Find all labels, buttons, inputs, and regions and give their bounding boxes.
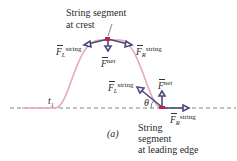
crest-caption-line1: String segment <box>66 8 126 18</box>
crest-caption-line2: at crest <box>66 20 95 30</box>
crest-f-right-label: FRstring <box>136 44 162 60</box>
edge-caption-line3: at leading edge <box>138 145 199 155</box>
edge-caption-line1: String <box>138 123 162 133</box>
theta-label: θ <box>144 98 149 108</box>
panel-label: (a) <box>107 129 119 139</box>
crest-segment <box>105 37 110 41</box>
crest-f-net-label: Fnet <box>101 56 115 69</box>
edge-f-left-label: FLstring <box>108 80 133 96</box>
edge-caption-line2: segment <box>138 134 171 144</box>
edge-segment <box>159 106 165 109</box>
crest-f-left-label: FLstring <box>56 44 81 60</box>
wave-pulse-diagram: String segment at crest FLstring Fnet FR… <box>0 0 237 161</box>
edge-f-right-label: FRstring <box>170 112 196 128</box>
time-label: t1 <box>48 96 54 110</box>
edge-f-net-label: Fnet <box>158 78 172 91</box>
